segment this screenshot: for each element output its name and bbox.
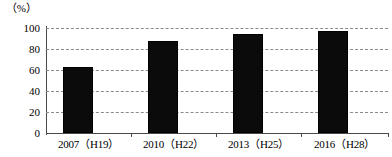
- x-label-2007: 2007（H19）: [46, 138, 131, 151]
- bar-2013: [233, 34, 263, 133]
- bar-2010: [148, 41, 178, 133]
- bar-2007: [63, 67, 93, 133]
- bar-2016: [318, 31, 348, 133]
- y-tick-label-40: 40: [0, 86, 40, 97]
- x-label-2016: 2016（H28）: [301, 138, 388, 151]
- y-tick-label-100: 100: [0, 23, 40, 34]
- x-tick-1: [131, 133, 132, 137]
- x-tick-4: [388, 133, 389, 137]
- y-tick-label-80: 80: [0, 44, 40, 55]
- x-tick-2: [216, 133, 217, 137]
- y-axis-unit-label: （%）: [6, 2, 36, 14]
- bar-chart: （%） 100 80 60 40 20 0 2007（H19） 2010（H22…: [0, 0, 392, 157]
- x-label-2013: 2013（H25）: [216, 138, 301, 151]
- x-axis-line: [46, 133, 389, 134]
- gridline-100: [46, 28, 388, 29]
- y-tick-label-60: 60: [0, 65, 40, 76]
- y-tick-label-20: 20: [0, 107, 40, 118]
- x-label-2010: 2010（H22）: [131, 138, 216, 151]
- y-tick-label-0: 0: [0, 128, 40, 139]
- plot-area: [46, 28, 388, 133]
- x-tick-3: [301, 133, 302, 137]
